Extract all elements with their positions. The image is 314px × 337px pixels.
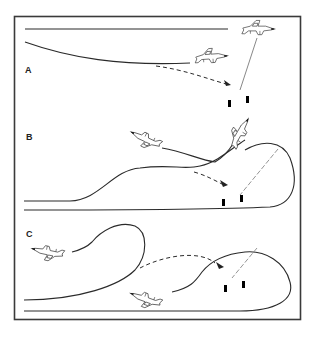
panel-a: A: [25, 20, 276, 111]
aircraft-pullup-icon: [126, 126, 163, 153]
panel-label-b: B: [26, 132, 33, 142]
bridge-target-icon: [206, 190, 258, 210]
weapon-trajectory: [194, 172, 222, 184]
aircraft-level-icon: [242, 20, 276, 34]
aircraft-ingress-icon: [29, 243, 65, 264]
bomb-icon: [224, 80, 231, 86]
climb-trail: [162, 144, 233, 162]
panel-label-a: A: [25, 65, 32, 75]
panel-b: B: [24, 113, 294, 210]
aircraft-diving-icon: [194, 47, 229, 64]
figure-frame: [15, 17, 301, 320]
weapon-trajectory: [140, 255, 215, 268]
aircraft-egress-icon: [126, 287, 163, 312]
loop-path: [24, 143, 294, 210]
sight-line: [240, 149, 278, 195]
left-loop-path: [24, 224, 145, 300]
bomb-icon: [216, 262, 224, 269]
panel-label-c: C: [26, 229, 33, 239]
sight-line: [240, 38, 257, 90]
bridge-target-icon: [212, 91, 264, 111]
pop-up-path: [24, 140, 245, 201]
weapon-trajectory: [156, 66, 226, 84]
attack-profile-diagram: A B C: [0, 0, 314, 337]
shallow-dive-path: [25, 42, 190, 64]
bridge-target-icon: [208, 276, 260, 296]
panel-c: C: [24, 224, 291, 312]
